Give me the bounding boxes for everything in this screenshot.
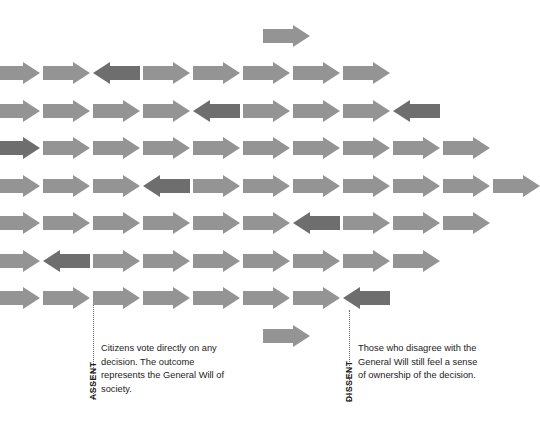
arrow-right-light [193, 137, 240, 159]
arrow-left-dark [93, 62, 140, 84]
arrow-left-dark [343, 287, 390, 309]
arrow-right-light [243, 137, 290, 159]
arrow-right-light [393, 212, 440, 234]
arrow-right-dark [0, 137, 40, 159]
arrow-right-light [293, 137, 340, 159]
callout-label-dissent: DISSENT [344, 360, 354, 402]
arrow-right-light [263, 325, 310, 347]
arrow-right-light [243, 100, 290, 122]
arrow-right-light [243, 250, 290, 272]
arrow-right-light [43, 212, 90, 234]
arrow-right-light [93, 137, 140, 159]
arrow-right-light [143, 212, 190, 234]
arrow-right-light [143, 287, 190, 309]
arrow-right-light [93, 175, 140, 197]
arrow-right-light [243, 175, 290, 197]
arrow-right-light [243, 62, 290, 84]
arrow-right-light [0, 62, 40, 84]
arrow-right-light [93, 212, 140, 234]
arrow-right-light [243, 212, 290, 234]
arrow-right-light [193, 62, 240, 84]
arrow-right-light [193, 250, 240, 272]
arrow-right-light [393, 137, 440, 159]
arrow-right-light [93, 287, 140, 309]
callout-body-dissent: Those who disagree with the General Will… [358, 342, 483, 383]
arrow-left-dark [193, 100, 240, 122]
arrow-right-light [343, 175, 390, 197]
arrow-right-light [43, 175, 90, 197]
arrow-left-dark [143, 175, 190, 197]
callout-label-assent: ASSENT [88, 361, 98, 400]
arrow-right-light [343, 62, 390, 84]
arrow-right-light [193, 212, 240, 234]
arrow-right-light [143, 250, 190, 272]
arrow-left-dark [393, 100, 440, 122]
arrow-right-light [143, 137, 190, 159]
arrow-left-dark [293, 212, 340, 234]
arrow-right-light [293, 100, 340, 122]
arrow-right-light [193, 175, 240, 197]
arrow-right-light [263, 25, 310, 47]
arrow-right-light [393, 175, 440, 197]
arrow-right-light [143, 100, 190, 122]
arrow-right-light [443, 175, 490, 197]
arrow-right-light [343, 137, 390, 159]
arrow-right-light [0, 250, 40, 272]
arrow-right-light [193, 287, 240, 309]
arrow-right-light [493, 175, 540, 197]
arrow-right-light [0, 175, 40, 197]
arrow-right-light [343, 100, 390, 122]
arrow-right-light [93, 250, 140, 272]
arrow-right-light [343, 212, 390, 234]
callout-body-assent: Citizens vote directly on any decision. … [101, 342, 226, 396]
arrow-right-light [43, 100, 90, 122]
arrow-right-light [293, 287, 340, 309]
arrow-right-light [443, 137, 490, 159]
arrow-right-light [0, 212, 40, 234]
arrow-right-light [293, 175, 340, 197]
arrow-right-light [343, 250, 390, 272]
arrow-right-light [443, 212, 490, 234]
arrow-right-light [0, 100, 40, 122]
arrow-right-light [0, 287, 40, 309]
arrow-right-light [293, 62, 340, 84]
arrow-right-light [43, 62, 90, 84]
arrow-right-light [243, 287, 290, 309]
arrow-right-light [393, 250, 440, 272]
arrow-right-light [93, 100, 140, 122]
arrow-right-light [293, 250, 340, 272]
arrow-right-light [143, 62, 190, 84]
arrow-right-light [43, 287, 90, 309]
arrow-left-dark [43, 250, 90, 272]
arrow-right-light [43, 137, 90, 159]
